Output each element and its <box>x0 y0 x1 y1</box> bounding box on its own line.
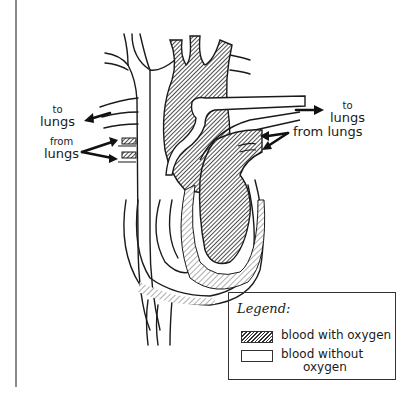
legend-box: Legend: blood with oxygen blood without … <box>228 292 396 380</box>
legend-item-deoxygenated: blood without oxygen <box>241 348 363 374</box>
label-left-from-lungs: from lungs <box>44 136 79 160</box>
legend-title: Legend: <box>237 301 290 316</box>
label-left-to-lungs: to lungs <box>40 104 75 128</box>
legend-item-oxygenated: blood with oxygen <box>241 329 391 343</box>
plain-swatch-icon <box>241 350 273 362</box>
hatched-swatch-icon <box>241 331 273 343</box>
label-right-to-lungs: to lungs <box>330 100 365 124</box>
label-right-from-lungs: from lungs <box>293 126 363 138</box>
